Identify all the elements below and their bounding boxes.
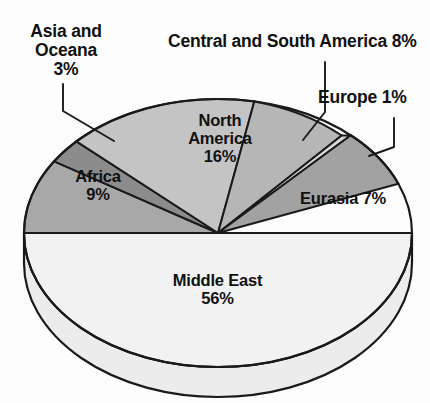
slice-label-europe: Europe 1% (318, 88, 428, 107)
slice-label-asia-oceana: Asia and Oceana 3% (6, 22, 126, 79)
pie-chart-figure: Asia and Oceana 3% Central and South Ame… (0, 0, 430, 403)
slice-label-central-south-america: Central and South America 8% (168, 32, 430, 51)
slice-label-africa: Africa 9% (38, 168, 158, 204)
slice-label-middle-east: Middle East 56% (140, 272, 295, 308)
slice-label-eurasia: Eurasia 7% (300, 190, 428, 208)
leader-line-europe (369, 118, 394, 156)
slice-label-north-america: North America 16% (160, 112, 280, 165)
